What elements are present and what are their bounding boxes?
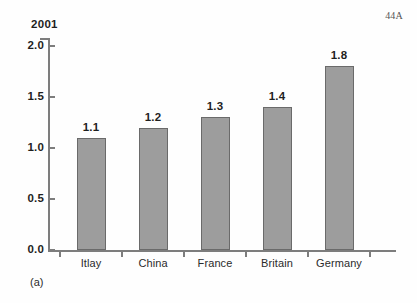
y-axis-tick-label: 0.0 xyxy=(10,243,44,255)
x-axis-category-label: Germany xyxy=(299,257,379,269)
bar xyxy=(77,138,106,250)
bar xyxy=(139,128,168,250)
y-axis-tick-label: 2.0 xyxy=(10,39,44,51)
y-axis-tick-label: 0.5 xyxy=(10,192,44,204)
figure-caption: (a) xyxy=(30,276,43,288)
y-axis-tick-label: 1.5 xyxy=(10,90,44,102)
y-axis-tick xyxy=(49,147,55,149)
bar-chart-figure: 44A 2001 0.00.51.01.52.01.1Itlay1.2China… xyxy=(0,0,417,303)
bar-value-label: 1.3 xyxy=(185,100,245,112)
y-axis-tick xyxy=(49,198,55,200)
y-axis-tick xyxy=(49,249,55,251)
bar-value-label: 1.4 xyxy=(247,90,307,102)
y-axis-tick xyxy=(49,45,55,47)
bar-value-label: 1.2 xyxy=(123,111,183,123)
bar xyxy=(201,117,230,250)
plot-area: 0.00.51.01.52.01.1Itlay1.2China1.3France… xyxy=(0,0,417,303)
bar xyxy=(325,66,354,250)
bar xyxy=(263,107,292,250)
y-axis-tick-label: 1.0 xyxy=(10,141,44,153)
bar-value-label: 1.1 xyxy=(61,121,121,133)
y-axis-line xyxy=(48,38,50,251)
y-axis-tick xyxy=(49,96,55,98)
x-axis-line xyxy=(48,250,396,252)
bar-value-label: 1.8 xyxy=(309,49,369,61)
